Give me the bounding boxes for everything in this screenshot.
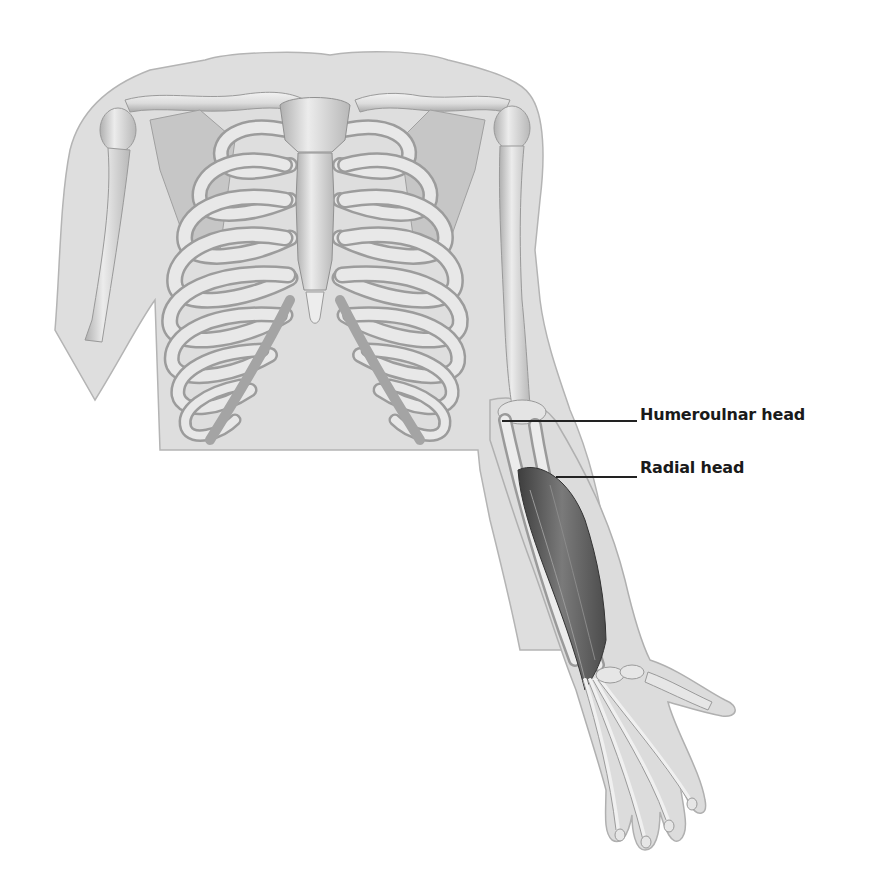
humeroulnar-leader-line bbox=[502, 420, 637, 422]
radial-leader-line bbox=[556, 476, 637, 478]
label-radial-head: Radial head bbox=[640, 458, 744, 477]
anatomy-illustration bbox=[0, 0, 874, 892]
label-humeroulnar-head: Humeroulnar head bbox=[640, 405, 805, 424]
